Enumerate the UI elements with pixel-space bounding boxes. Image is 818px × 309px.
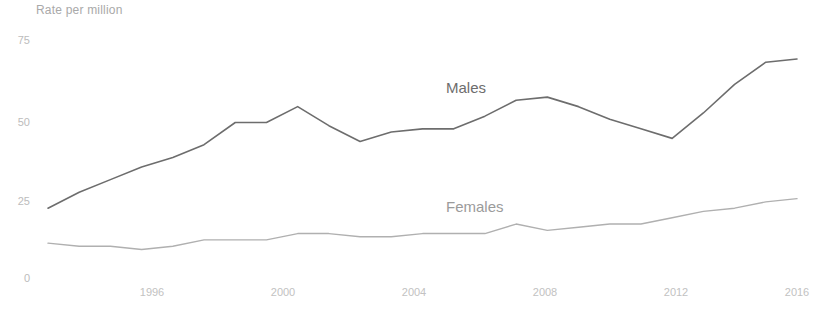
x-axis: 1996 2000 2004 2008 2012 2016 [0,286,818,309]
series-line-females [48,199,797,250]
series-label-females: Females [446,198,504,215]
x-axis-tick: 2008 [533,286,557,298]
series-line-males [48,59,797,208]
x-axis-tick: 2012 [664,286,688,298]
x-axis-tick: 2016 [785,286,809,298]
plot-area [0,0,818,309]
x-axis-tick: 1996 [140,286,164,298]
x-axis-tick: 2004 [402,286,426,298]
line-chart: Rate per million 75 50 25 0 Males Female… [0,0,818,309]
x-axis-tick: 2000 [271,286,295,298]
series-label-males: Males [446,79,486,96]
